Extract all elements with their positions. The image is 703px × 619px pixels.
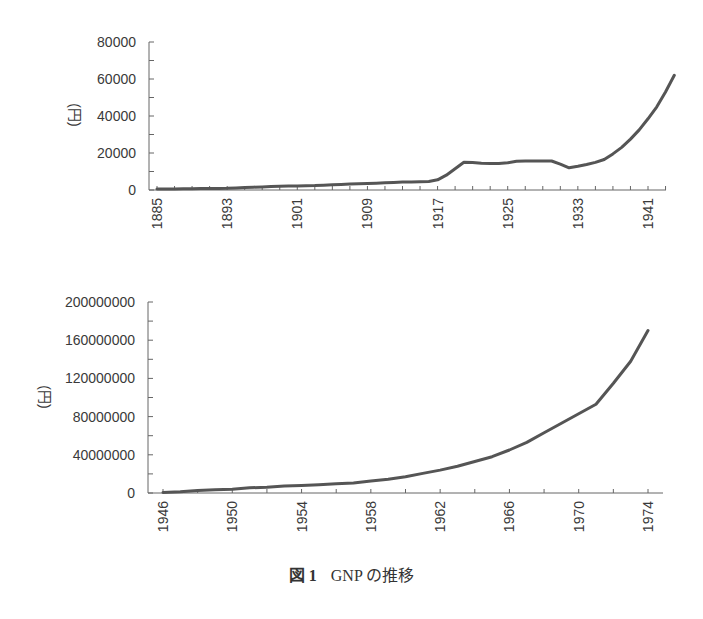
- y-tick-label: 0: [127, 485, 135, 501]
- x-tick-label: 1901: [289, 198, 305, 229]
- x-tick-label: 1958: [363, 501, 379, 532]
- y-tick-label: 20000: [97, 145, 136, 161]
- y-axis-label: (円): [37, 385, 53, 408]
- y-tick-label: 60000: [97, 71, 136, 87]
- x-tick-label: 1962: [432, 501, 448, 532]
- y-tick-label: 40000000: [73, 447, 136, 463]
- figure-caption: 図 1 GNP の推移: [0, 562, 703, 586]
- y-axis-label: (円): [67, 103, 83, 126]
- x-tick-label: 1909: [359, 198, 375, 229]
- x-tick-label: 1893: [219, 198, 235, 229]
- x-tick-label: 1925: [500, 198, 516, 229]
- y-tick-label: 80000000: [73, 409, 136, 425]
- data-line: [163, 331, 648, 493]
- x-tick-label: 1954: [294, 501, 310, 532]
- x-tick-label: 1933: [570, 198, 586, 229]
- y-tick-label: 80000: [97, 34, 136, 50]
- chart-prewar-gnp: 0200004000060000800001885189319011909191…: [67, 34, 674, 229]
- x-tick-label: 1970: [571, 501, 587, 532]
- y-tick-label: 40000: [97, 108, 136, 124]
- x-tick-label: 1885: [149, 198, 165, 229]
- x-tick-label: 1946: [155, 501, 171, 532]
- figure-title: GNP の推移: [331, 567, 414, 584]
- gnp-charts: 0200004000060000800001885189319011909191…: [0, 0, 703, 560]
- x-tick-label: 1974: [640, 501, 656, 532]
- x-tick-label: 1941: [640, 198, 656, 229]
- y-tick-label: 0: [128, 182, 136, 198]
- y-tick-label: 120000000: [65, 370, 135, 386]
- data-line: [157, 75, 674, 189]
- x-tick-label: 1950: [224, 501, 240, 532]
- chart-postwar-gnp: 0400000008000000012000000016000000020000…: [37, 294, 663, 532]
- x-tick-label: 1917: [430, 198, 446, 229]
- y-tick-label: 200000000: [65, 294, 135, 310]
- figure-label: 図 1: [289, 567, 317, 584]
- x-tick-label: 1966: [501, 501, 517, 532]
- y-tick-label: 160000000: [65, 332, 135, 348]
